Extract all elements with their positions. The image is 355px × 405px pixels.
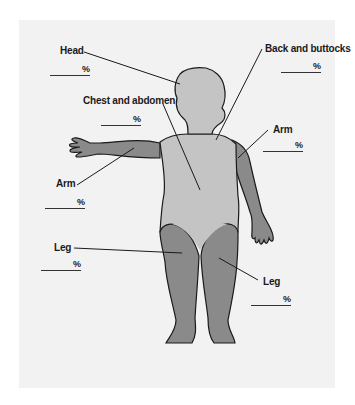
right-arm-percent-sign: % bbox=[295, 140, 303, 150]
right-leg-percent-input[interactable]: % bbox=[251, 293, 291, 306]
left-arm-label: Arm bbox=[56, 178, 75, 189]
back-buttocks-percent-input[interactable]: % bbox=[281, 60, 321, 73]
left-leg-percent-input[interactable]: % bbox=[41, 258, 81, 271]
left-arm-shape bbox=[69, 138, 160, 158]
chest-abdomen-percent-input[interactable]: % bbox=[101, 113, 141, 126]
right-leg-shape bbox=[201, 224, 238, 343]
right-leg-percent-sign: % bbox=[283, 294, 291, 304]
back-buttocks-label: Back and buttocks bbox=[265, 43, 351, 54]
right-arm-label: Arm bbox=[273, 124, 292, 135]
head-percent-sign: % bbox=[82, 64, 90, 74]
chest-abdomen-percent-sign: % bbox=[133, 114, 141, 124]
head-leader-line bbox=[84, 52, 180, 84]
left-leg-shape bbox=[160, 224, 199, 343]
head-label: Head bbox=[60, 45, 84, 56]
torso-shape bbox=[160, 134, 239, 232]
left-leg-label: Leg bbox=[54, 242, 71, 253]
head-percent-input[interactable]: % bbox=[50, 63, 90, 76]
left-arm-percent-sign: % bbox=[77, 197, 85, 207]
left-arm-percent-input[interactable]: % bbox=[45, 196, 85, 209]
head-shape bbox=[175, 68, 225, 134]
right-arm-percent-input[interactable]: % bbox=[263, 139, 303, 152]
right-leg-label: Leg bbox=[263, 276, 280, 287]
chest-abdomen-label: Chest and abdomen bbox=[83, 95, 175, 106]
left-leg-percent-sign: % bbox=[73, 259, 81, 269]
back-buttocks-percent-sign: % bbox=[313, 61, 321, 71]
